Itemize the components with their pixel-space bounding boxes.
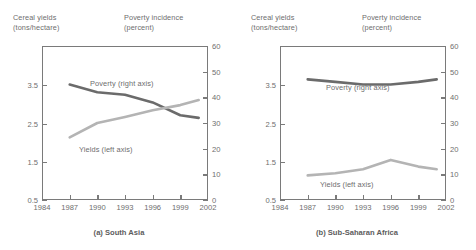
right-axis-title-line1-b: Poverty incidence <box>362 13 421 23</box>
left-axis-title-a: Cereal yields (tons/hectare) <box>13 13 59 32</box>
ytick-label-left-a-2: 2.5 <box>27 119 38 128</box>
panel-sub-saharan-africa: Cereal yields (tons/hectare) Poverty inc… <box>238 0 476 250</box>
panel-south-asia: Cereal yields (tons/hectare) Poverty inc… <box>0 0 238 250</box>
xtick-label-a-1993: 1993 <box>117 203 134 212</box>
ytick-label-left-b-2: 2.5 <box>265 119 276 128</box>
xtick-label-a-1990: 1990 <box>89 203 106 212</box>
xtick-label-a-1987: 1987 <box>61 203 78 212</box>
left-axis-title-b: Cereal yields (tons/hectare) <box>251 13 297 32</box>
ytick-label-left-b-1: 1.5 <box>265 157 276 166</box>
ytick-label-right-a-50: 50 <box>212 67 220 76</box>
ytick-label-right-b-60: 60 <box>450 42 458 51</box>
xtick-label-b-1990: 1990 <box>327 203 344 212</box>
xtick-label-b-1996: 1996 <box>382 203 399 212</box>
ytick-label-right-b-40: 40 <box>450 93 458 102</box>
series-line-poverty-a <box>70 85 199 118</box>
panel-caption-a: (a) South Asia <box>0 228 238 237</box>
series-line-yields-b <box>308 160 437 176</box>
xtick-label-a-1984: 1984 <box>34 203 51 212</box>
ytick-label-right-a-30: 30 <box>212 119 220 128</box>
ytick-label-left-a-1: 1.5 <box>27 157 38 166</box>
figure-two-panel-line-charts: Cereal yields (tons/hectare) Poverty inc… <box>0 0 476 250</box>
xtick-label-a-1996: 1996 <box>144 203 161 212</box>
right-axis-title-a: Poverty incidence (percent) <box>124 13 183 32</box>
ytick-label-right-b-30: 30 <box>450 119 458 128</box>
series-annotation-yields-b: Yields (left axis) <box>320 180 374 189</box>
series-line-yields-a <box>70 100 199 137</box>
xtick-label-a-2002: 2002 <box>200 203 217 212</box>
xtick-label-b-1999: 1999 <box>410 203 427 212</box>
right-axis-title-b: Poverty incidence (percent) <box>362 13 421 32</box>
ytick-label-right-b-50: 50 <box>450 67 458 76</box>
xtick-label-b-1993: 1993 <box>355 203 372 212</box>
panel-caption-b: (b) Sub-Saharan Africa <box>238 228 476 237</box>
right-axis-title-line1-a: Poverty incidence <box>124 13 183 23</box>
ytick-label-right-b-20: 20 <box>450 144 458 153</box>
left-axis-title-line2-b: (tons/hectare) <box>251 23 297 33</box>
right-axis-title-line2-a: (percent) <box>124 23 183 33</box>
left-axis-title-line1-a: Cereal yields <box>13 13 59 23</box>
ytick-mark-right-a-0 <box>203 200 208 201</box>
xtick-label-b-1984: 1984 <box>272 203 289 212</box>
series-plot-b <box>280 46 446 200</box>
series-annotation-poverty-b: Poverty (right axis) <box>326 83 390 92</box>
ytick-mark-left-a-0 <box>42 200 47 201</box>
xtick-label-b-2002: 2002 <box>438 203 455 212</box>
ytick-label-right-a-10: 10 <box>212 170 220 179</box>
ytick-label-left-a-3: 3.5 <box>27 81 38 90</box>
left-axis-title-line2-a: (tons/hectare) <box>13 23 59 33</box>
xtick-label-b-1987: 1987 <box>299 203 316 212</box>
series-plot-a <box>42 46 208 200</box>
ytick-label-right-a-40: 40 <box>212 93 220 102</box>
ytick-mark-left-b-0 <box>280 200 285 201</box>
ytick-label-right-a-20: 20 <box>212 144 220 153</box>
xtick-label-a-1999: 1999 <box>172 203 189 212</box>
right-axis-title-line2-b: (percent) <box>362 23 421 33</box>
ytick-label-right-b-10: 10 <box>450 170 458 179</box>
series-annotation-poverty-a: Poverty (right axis) <box>90 79 154 88</box>
ytick-label-right-a-60: 60 <box>212 42 220 51</box>
left-axis-title-line1-b: Cereal yields <box>251 13 297 23</box>
series-annotation-yields-a: Yields (left axis) <box>79 145 133 154</box>
ytick-label-left-b-3: 3.5 <box>265 81 276 90</box>
ytick-mark-right-b-0 <box>441 200 446 201</box>
